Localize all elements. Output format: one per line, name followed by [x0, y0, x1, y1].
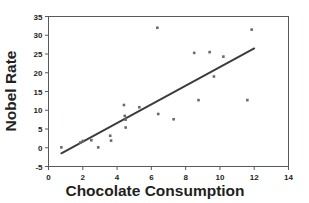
- x-tick-label: 8: [183, 173, 188, 182]
- data-point: [124, 118, 127, 121]
- y-axis-ticks: [45, 17, 49, 167]
- data-point: [213, 75, 216, 78]
- y-tick-label: -5: [35, 163, 43, 172]
- x-tick-label: 2: [81, 173, 86, 182]
- x-axis-ticks: [49, 167, 289, 171]
- data-point: [124, 126, 127, 129]
- data-point: [208, 51, 211, 54]
- y-axis-title: Nobel Rate: [2, 50, 19, 131]
- x-tick-label: 12: [250, 173, 259, 182]
- y-axis-tick-labels: -505101520253035: [34, 13, 43, 172]
- data-point: [123, 104, 126, 107]
- data-point: [157, 113, 160, 116]
- x-tick-label: 4: [115, 173, 120, 182]
- trend-line: [61, 48, 254, 153]
- chart-canvas: 02468101214 -505101520253035 Chocolate C…: [0, 0, 309, 203]
- data-point: [123, 115, 126, 118]
- scatter-chart: 02468101214 -505101520253035 Chocolate C…: [0, 0, 309, 203]
- data-point: [97, 146, 100, 149]
- x-axis-title: Chocolate Consumption: [65, 182, 244, 199]
- data-point: [109, 134, 112, 137]
- x-axis-tick-labels: 02468101214: [46, 173, 293, 182]
- x-tick-label: 6: [149, 173, 154, 182]
- data-point: [138, 106, 141, 109]
- y-tick-label: 10: [34, 106, 43, 115]
- y-tick-label: 5: [38, 125, 43, 134]
- x-tick-label: 10: [215, 173, 224, 182]
- plot-frame: [49, 17, 289, 167]
- data-point: [172, 118, 175, 121]
- data-point: [156, 26, 159, 29]
- data-points: [60, 26, 253, 148]
- data-point: [197, 99, 200, 102]
- data-point: [222, 55, 225, 58]
- trend-line-segment: [61, 48, 254, 153]
- data-point: [246, 99, 249, 102]
- data-point: [110, 139, 113, 142]
- data-point: [193, 52, 196, 55]
- data-point: [81, 140, 84, 143]
- y-tick-label: 30: [34, 31, 43, 40]
- y-tick-label: 0: [38, 144, 43, 153]
- x-tick-label: 14: [284, 173, 293, 182]
- data-point: [250, 28, 253, 31]
- data-point: [79, 141, 82, 144]
- x-tick-label: 0: [46, 173, 51, 182]
- data-point: [90, 139, 93, 142]
- y-tick-label: 35: [34, 13, 43, 22]
- y-tick-label: 15: [34, 88, 43, 97]
- y-tick-label: 20: [34, 69, 43, 78]
- data-point: [60, 146, 63, 149]
- y-tick-label: 25: [34, 50, 43, 59]
